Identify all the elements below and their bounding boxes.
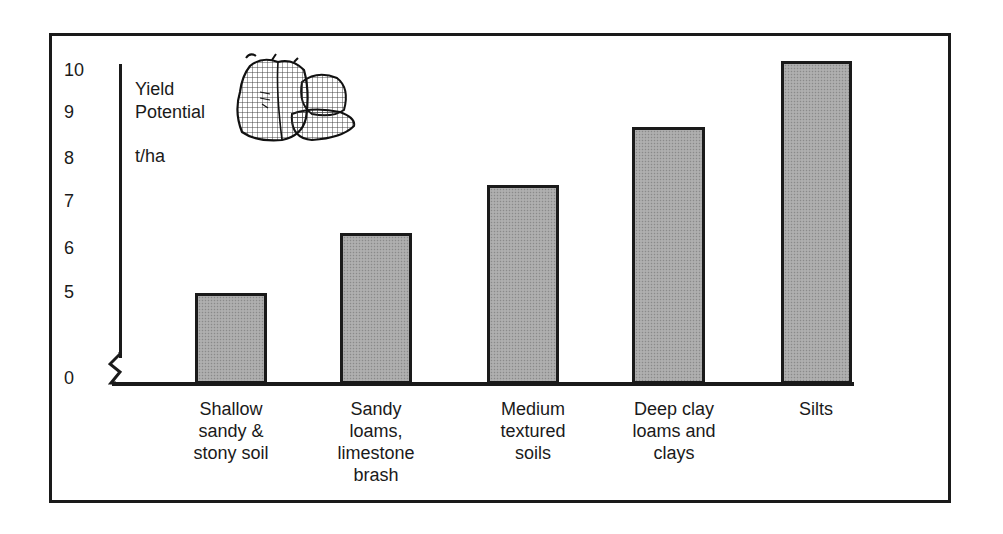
x-label-silts: Silts [746,398,886,420]
y-axis-unit: t/ha [135,145,165,167]
x-label-medium-textured: Medium textured soils [463,398,603,464]
y-axis-title-line2: Potential [135,101,205,123]
y-tick-10: 10 [64,61,104,79]
y-tick-7: 7 [64,192,104,210]
axis-break-icon [108,352,128,386]
bar-silts [781,61,852,384]
grain-sacks-icon [232,52,357,147]
y-axis-title-line1: Yield [135,78,174,100]
bar-deep-clay [632,127,705,384]
bar-medium-textured [487,185,559,384]
bar-shallow-sandy-stony [195,293,267,384]
x-label-deep-clay: Deep clay loams and clays [604,398,744,464]
y-tick-9: 9 [64,103,104,121]
bar-sandy-loams [340,233,412,384]
y-tick-0: 0 [64,369,104,387]
y-axis [119,64,122,358]
x-label-shallow-sandy-stony: Shallow sandy & stony soil [161,398,301,464]
y-tick-5: 5 [64,283,104,301]
x-label-sandy-loams: Sandy loams, limestone brash [306,398,446,486]
y-tick-8: 8 [64,149,104,167]
y-tick-6: 6 [64,239,104,257]
